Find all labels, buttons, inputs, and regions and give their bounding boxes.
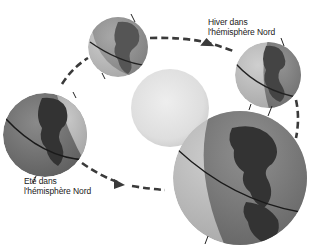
winter-label: Hiver dans l'hémisphère Nord (208, 17, 275, 37)
seasons-diagram: Hiver dans l'hémisphère Nord Eté dans l'… (0, 0, 316, 249)
axis-icon (73, 92, 76, 98)
summer-label-line2: l'hémisphère Nord (24, 186, 91, 196)
winter-label-line2: l'hémisphère Nord (208, 27, 275, 37)
axis-icon (281, 38, 284, 46)
axis-icon (102, 73, 105, 79)
earth-right (235, 40, 310, 112)
earth-left (3, 92, 95, 177)
winter-label-line1: Hiver dans (208, 17, 275, 27)
diagram-canvas (0, 0, 316, 249)
orbit-arrow-icon (200, 37, 215, 47)
orbit-arrow-icon (114, 179, 125, 189)
summer-label: Eté dans l'hémisphère Nord (24, 176, 91, 196)
earth-top (88, 10, 150, 78)
axis-icon (205, 236, 208, 244)
axis-icon (249, 104, 251, 110)
summer-label-line1: Eté dans (24, 176, 91, 186)
